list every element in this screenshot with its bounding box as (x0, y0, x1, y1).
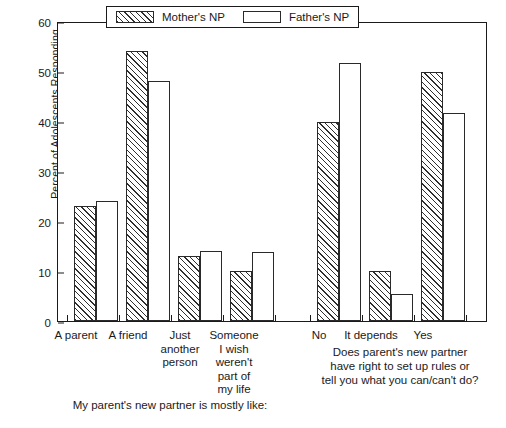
x-tick-mark-2 (171, 315, 172, 321)
x-tick-mark-8 (466, 315, 467, 321)
bar-fathers-np-someone-i-wish-werent (252, 252, 274, 321)
y-tick-mark-30 (58, 173, 64, 174)
legend-swatch-fathers-np (243, 11, 281, 23)
bar-mothers-np-no (317, 122, 339, 321)
bar-mothers-np-a-friend (126, 51, 148, 321)
legend-swatch-mothers-np (116, 11, 154, 23)
x-tick-mark-7 (414, 315, 415, 321)
y-tick-mark-40 (58, 123, 64, 124)
bar-fathers-np-a-parent (96, 201, 118, 321)
bar-fathers-np-no (339, 63, 361, 321)
y-tick-label-10: 10 (38, 267, 58, 279)
y-tick-mark-50 (58, 73, 64, 74)
caption-right-panel: Does parent's new partner have right to … (300, 345, 500, 387)
x-tick-mark-5 (310, 315, 311, 321)
plot-area: 0 10 20 30 40 50 60 (57, 22, 487, 322)
x-tick-mark-3 (223, 315, 224, 321)
y-tick-mark-60 (58, 23, 64, 24)
legend-label-fathers-np: Father's NP (289, 11, 349, 23)
bar-mothers-np-someone-i-wish-werent (230, 271, 252, 321)
y-tick-label-50: 50 (38, 67, 58, 79)
x-tick-mark-6 (362, 315, 363, 321)
y-tick-label-40: 40 (38, 117, 58, 129)
y-tick-mark-10 (58, 273, 64, 274)
bar-mothers-np-just-another-person (178, 256, 200, 321)
category-label-yes: Yes (387, 329, 459, 343)
y-tick-label-0: 0 (45, 317, 58, 329)
bar-chart-figure: Percent of Adolescents Responding 0 10 2… (0, 0, 506, 428)
bar-fathers-np-yes (443, 113, 465, 321)
bar-mothers-np-it-depends (369, 271, 391, 321)
y-tick-label-60: 60 (38, 17, 58, 29)
x-tick-mark-4 (275, 315, 276, 321)
category-label-someone-i-wish-werent: Someone I wish weren't part of my life (196, 329, 272, 397)
bar-fathers-np-a-friend (148, 81, 170, 321)
legend-label-mothers-np: Mother's NP (162, 11, 225, 23)
y-tick-label-30: 30 (38, 167, 58, 179)
y-tick-mark-0 (58, 323, 64, 324)
bar-mothers-np-a-parent (74, 206, 96, 321)
y-tick-label-20: 20 (38, 217, 58, 229)
chart-legend: Mother's NP Father's NP (106, 6, 359, 28)
caption-left-panel: My parent's new partner is mostly like: (40, 398, 300, 412)
x-tick-mark-0 (67, 315, 68, 321)
bar-mothers-np-yes (421, 72, 443, 321)
x-tick-mark-1 (119, 315, 120, 321)
bar-fathers-np-just-another-person (200, 251, 222, 321)
y-tick-mark-20 (58, 223, 64, 224)
bar-fathers-np-it-depends (391, 294, 413, 321)
